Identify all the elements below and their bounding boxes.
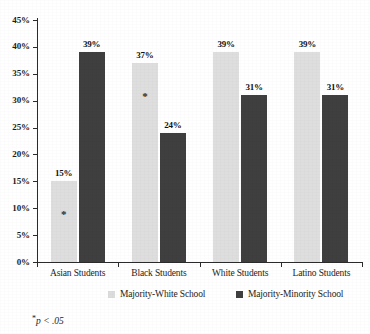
legend-item: Majority-White School bbox=[108, 289, 205, 299]
y-axis-label: 40% bbox=[0, 42, 30, 51]
legend-label: Majority-Minority School bbox=[248, 289, 343, 299]
legend-swatch-dark bbox=[236, 291, 243, 298]
bar-value-label: 15% bbox=[45, 169, 83, 178]
footnote-text: p < .05 bbox=[36, 316, 64, 326]
x-axis-tick bbox=[37, 262, 38, 267]
y-axis-label: 25% bbox=[0, 123, 30, 132]
significance-marker: * bbox=[51, 211, 77, 217]
y-axis-label: 20% bbox=[0, 150, 30, 159]
legend-label: Majority-White School bbox=[120, 289, 205, 299]
bar-chart: 0%5%10%15%20%25%30%35%40%45% 15%*39%37%*… bbox=[0, 0, 370, 334]
bar bbox=[241, 95, 267, 262]
significance-footnote: *p < .05 bbox=[32, 313, 64, 327]
legend-swatch-light bbox=[108, 291, 115, 298]
x-axis-tick bbox=[362, 262, 363, 267]
bar-value-label: 39% bbox=[73, 40, 111, 49]
significance-marker: * bbox=[132, 93, 158, 99]
x-axis-tick bbox=[200, 262, 201, 267]
x-axis-category-label: Asian Students bbox=[37, 268, 118, 279]
y-axis-label: 10% bbox=[0, 204, 30, 213]
bar-value-label: 31% bbox=[316, 83, 354, 92]
bar bbox=[79, 52, 105, 262]
legend-item: Majority-Minority School bbox=[236, 289, 343, 299]
bar-value-label: 39% bbox=[207, 40, 245, 49]
y-axis-label: 5% bbox=[0, 231, 30, 240]
y-axis-label: 15% bbox=[0, 177, 30, 186]
bar bbox=[51, 181, 77, 262]
y-axis-label: 0% bbox=[0, 258, 30, 267]
x-axis-category-label: Latino Students bbox=[281, 268, 362, 279]
bar-value-label: 31% bbox=[235, 83, 273, 92]
chart-legend: Majority-White SchoolMajority-Minority S… bbox=[0, 289, 370, 303]
bar-value-label: 24% bbox=[154, 121, 192, 130]
x-axis-category-label: Black Students bbox=[118, 268, 199, 279]
y-axis-label: 45% bbox=[0, 16, 30, 25]
bar-value-label: 39% bbox=[288, 40, 326, 49]
x-axis-tick bbox=[281, 262, 282, 267]
y-axis-label: 30% bbox=[0, 96, 30, 105]
bar bbox=[322, 95, 348, 262]
x-axis-tick bbox=[118, 262, 119, 267]
bar bbox=[160, 133, 186, 262]
bar-value-label: 37% bbox=[126, 51, 164, 60]
y-axis-label: 35% bbox=[0, 69, 30, 78]
x-axis-category-label: White Students bbox=[200, 268, 281, 279]
plot-area: 15%*39%37%*24%39%31%39%31% bbox=[37, 20, 362, 262]
